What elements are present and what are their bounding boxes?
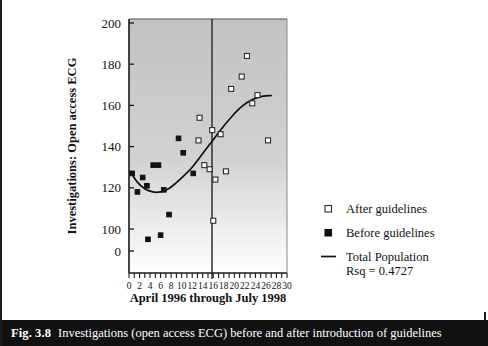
data-point-before-guidelines bbox=[156, 163, 161, 168]
data-point-before-guidelines bbox=[130, 171, 135, 176]
x-tick-label: 16 bbox=[209, 281, 219, 291]
data-point-after-guidelines bbox=[207, 167, 212, 172]
legend: After guidelines Before guidelines Total… bbox=[321, 202, 435, 279]
x-tick-label: 20 bbox=[230, 281, 240, 291]
data-point-before-guidelines bbox=[158, 233, 163, 238]
data-point-after-guidelines bbox=[223, 169, 228, 174]
data-point-before-guidelines bbox=[145, 183, 150, 188]
data-point-before-guidelines bbox=[151, 163, 156, 168]
legend-label-after-guidelines: After guidelines bbox=[346, 202, 427, 216]
data-point-after-guidelines bbox=[213, 177, 218, 182]
legend-label-before-guidelines: Before guidelines bbox=[346, 226, 435, 240]
data-point-before-guidelines bbox=[176, 136, 181, 141]
data-point-after-guidelines bbox=[229, 86, 234, 91]
x-tick-label: 14 bbox=[198, 281, 208, 291]
x-tick-label: 6 bbox=[158, 281, 163, 291]
x-tick-label: 18 bbox=[219, 281, 229, 291]
y-axis-title: Investigations: Open access ECG bbox=[65, 57, 79, 234]
x-tick-label: 22 bbox=[240, 281, 250, 291]
data-point-after-guidelines bbox=[266, 138, 271, 143]
y-tick-label: 120 bbox=[102, 180, 122, 195]
x-tick-label: 30 bbox=[282, 281, 292, 291]
y-tick-label: 100 bbox=[102, 222, 122, 237]
legend-marker-before-guidelines bbox=[325, 230, 332, 237]
y-tick-label: 160 bbox=[102, 98, 122, 113]
x-tick-label: 8 bbox=[169, 281, 174, 291]
x-tick-label: 4 bbox=[148, 281, 153, 291]
y-tick-label: 180 bbox=[102, 57, 122, 72]
x-tick-label: 24 bbox=[251, 281, 261, 291]
data-point-after-guidelines bbox=[211, 218, 216, 223]
y-tick-label: 200 bbox=[102, 16, 122, 31]
data-point-before-guidelines bbox=[146, 237, 151, 242]
data-point-after-guidelines bbox=[196, 138, 201, 143]
x-tick-group: 024681012141618202224262830 bbox=[127, 273, 292, 291]
chart-svg: 0100120140160180200 02468101214161820222… bbox=[2, 0, 488, 312]
data-point-after-guidelines bbox=[239, 74, 244, 79]
figure-caption-text: Investigations (open access ECG) before … bbox=[58, 326, 442, 341]
data-point-before-guidelines bbox=[191, 171, 196, 176]
chart-area: 0100120140160180200 02468101214161820222… bbox=[2, 0, 488, 312]
data-point-after-guidelines bbox=[202, 163, 207, 168]
x-tick-label: 0 bbox=[127, 281, 132, 291]
legend-marker-after-guidelines bbox=[325, 206, 332, 213]
y-tick-label: 140 bbox=[102, 139, 122, 154]
x-tick-label: 26 bbox=[261, 281, 271, 291]
legend-label-total-population: Total Population bbox=[346, 250, 430, 264]
data-point-before-guidelines bbox=[167, 212, 172, 217]
data-point-after-guidelines bbox=[244, 53, 249, 58]
data-point-after-guidelines bbox=[210, 128, 215, 133]
x-tick-label: 2 bbox=[137, 281, 142, 291]
figure-caption-bar: Fig. 3.8 Investigations (open access ECG… bbox=[2, 320, 488, 346]
figure-number: Fig. 3.8 bbox=[11, 326, 51, 341]
data-point-before-guidelines bbox=[135, 190, 140, 195]
data-point-after-guidelines bbox=[250, 101, 255, 106]
data-point-before-guidelines bbox=[140, 175, 145, 180]
legend-label-rsq: Rsq = 0.4727 bbox=[346, 264, 413, 278]
x-tick-label: 28 bbox=[272, 281, 282, 291]
x-axis-title: April 1996 through July 1998 bbox=[130, 291, 287, 305]
x-tick-label: 12 bbox=[187, 281, 197, 291]
data-point-after-guidelines bbox=[218, 132, 223, 137]
data-point-after-guidelines bbox=[197, 115, 202, 120]
data-point-after-guidelines bbox=[255, 93, 260, 98]
x-tick-label: 10 bbox=[177, 281, 187, 291]
data-point-before-guidelines bbox=[181, 150, 186, 155]
data-point-before-guidelines bbox=[161, 188, 166, 193]
y-tick-label: 0 bbox=[115, 244, 122, 259]
